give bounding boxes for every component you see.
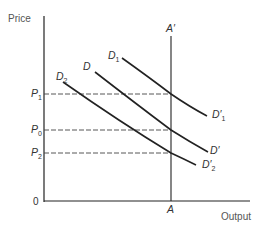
label-d2-prime: D′2 [202,158,216,172]
x-axis-label: Output [221,211,251,222]
demand-curve-d1 [122,58,207,116]
label-d1: D1 [108,49,120,63]
label-d2: D2 [56,70,68,84]
label-d: D [83,60,91,72]
label-p1: P1 [31,87,42,101]
label-d-prime: D′ [210,144,221,156]
label-a-prime: A′ [165,22,176,34]
label-p2: P2 [31,146,42,160]
label-p0: P0 [31,123,42,137]
y-axis-label: Price [8,13,31,24]
label-d1-prime: D′1 [212,108,226,122]
demand-curve-d [95,72,208,152]
demand-shift-diagram: Price Output 0 A′ A P1 P0 P2 D1 D D2 D′1… [0,0,265,228]
label-a: A [166,203,174,215]
origin-label: 0 [33,196,39,207]
